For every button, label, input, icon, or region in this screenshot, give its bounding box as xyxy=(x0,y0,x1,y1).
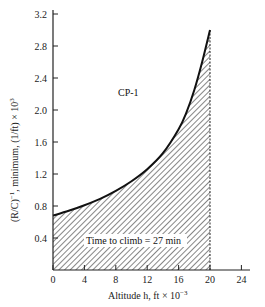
x-tick-label: 8 xyxy=(113,274,118,285)
y-tick-label: 2.8 xyxy=(35,41,48,52)
y-axis-title: (R/C)−1, minimum, (1/ft) × 103 xyxy=(8,98,21,222)
x-tick-label: 12 xyxy=(142,274,152,285)
y-tick-label: 2.0 xyxy=(35,105,48,116)
y-ticks: 0.40.81.21.62.02.42.83.2 xyxy=(35,9,59,244)
x-axis-title-main: Altitude h, ft × 10 xyxy=(108,290,180,301)
y-tick-label: 3.2 xyxy=(35,9,48,20)
area-label: Time to climb = 27 min xyxy=(86,235,181,246)
series-tag: CP-1 xyxy=(118,87,139,98)
y-axis-title-exp2: 3 xyxy=(8,98,16,102)
y-tick-label: 1.2 xyxy=(35,169,48,180)
y-tick-label: 0.8 xyxy=(35,201,48,212)
x-axis-title-exponent: −3 xyxy=(180,289,188,297)
y-axis-title-main: (R/C) xyxy=(9,199,21,222)
x-tick-label: 24 xyxy=(236,274,246,285)
x-tick-label: 0 xyxy=(51,274,56,285)
x-tick-label: 16 xyxy=(174,274,184,285)
y-tick-label: 2.4 xyxy=(35,73,48,84)
x-tick-label: 4 xyxy=(82,274,87,285)
y-tick-label: 1.6 xyxy=(35,137,48,148)
y-axis-title-rest: , minimum, (1/ft) × 10 xyxy=(9,102,21,192)
x-tick-label: 20 xyxy=(205,274,215,285)
x-axis-title: Altitude h, ft × 10−3 xyxy=(108,289,188,301)
y-tick-label: 0.4 xyxy=(35,233,48,244)
chart: 0.40.81.21.62.02.42.83.2 04812162024 CP-… xyxy=(0,0,265,307)
